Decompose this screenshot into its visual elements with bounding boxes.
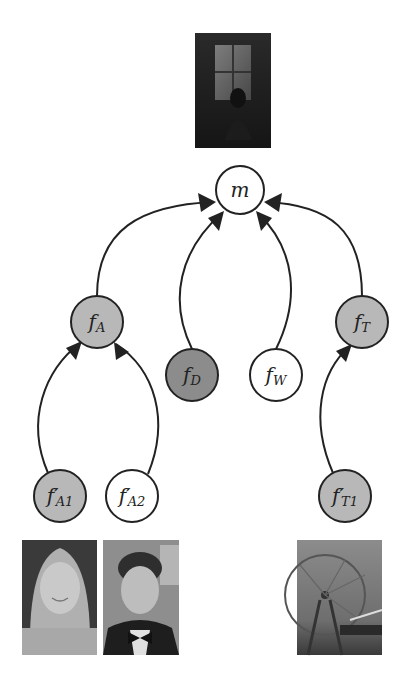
edge-fA2-to-fA — [114, 342, 158, 474]
node-fA: fA — [71, 296, 123, 348]
arrowhead-icon — [208, 211, 224, 231]
edge-fD-to-m — [180, 211, 224, 349]
node-fA2: f′A2 — [106, 470, 158, 522]
graphical-model-diagram: mfAfDfWfTf′A1f′A2f′T1 — [0, 0, 420, 693]
node-label: m — [231, 178, 250, 202]
node-m: m — [216, 166, 264, 214]
arrowhead-icon — [256, 211, 272, 231]
node-fW: fW — [250, 349, 302, 401]
actor-photo-image — [103, 540, 179, 655]
movie-poster-image — [195, 33, 271, 148]
edge-fT1-to-fT — [320, 344, 352, 473]
arrowhead-icon — [114, 342, 129, 360]
node-fA1: f′A1 — [34, 470, 86, 522]
node-fT1: f′T1 — [319, 470, 371, 522]
edge-fA1-to-fA — [38, 341, 82, 473]
actress-photo-image — [22, 540, 97, 655]
edge-fA-to-m — [97, 193, 216, 296]
arrowhead-icon — [264, 193, 282, 212]
edge-fT-to-m — [264, 193, 362, 296]
node-fT: fT — [336, 296, 388, 348]
node-fD: fD — [166, 349, 218, 401]
arrowhead-icon — [66, 341, 82, 360]
ferris-wheel-photo-image — [285, 540, 382, 655]
arrowhead-icon — [198, 193, 216, 212]
edge-fW-to-m — [256, 211, 291, 349]
